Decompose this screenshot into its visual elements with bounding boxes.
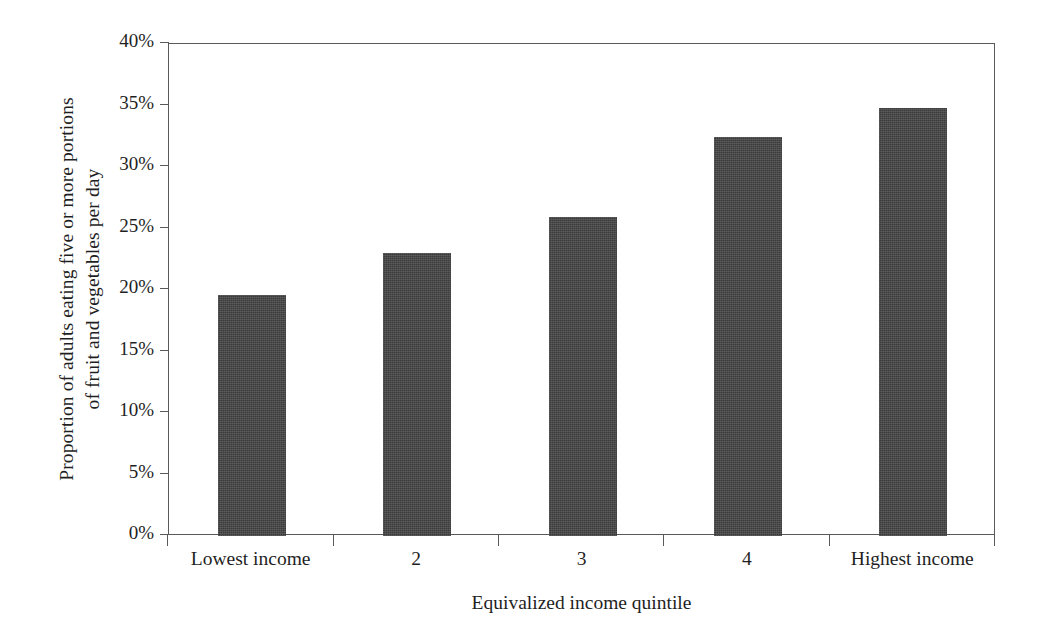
x-axis-tick-label: Highest income	[822, 548, 1002, 570]
x-axis-tick-mark	[333, 535, 334, 546]
y-axis-tick-label: 5%	[92, 461, 154, 483]
y-axis-tick-label: 0%	[92, 522, 154, 544]
y-axis-tick-label: 15%	[92, 338, 154, 360]
y-axis-tick-label: 20%	[92, 276, 154, 298]
x-axis-tick-mark	[994, 535, 995, 546]
x-axis-tick-label: 2	[326, 548, 506, 570]
bar	[383, 253, 451, 536]
plot-area	[168, 43, 995, 535]
x-axis-tick-label: 3	[492, 548, 672, 570]
y-axis-tick-label: 25%	[92, 215, 154, 237]
x-axis-tick-mark	[167, 535, 168, 546]
bar	[549, 217, 617, 536]
x-axis-title: Equivalized income quintile	[168, 592, 995, 614]
x-axis-tick-mark	[498, 535, 499, 546]
y-axis-tick-label: 35%	[92, 92, 154, 114]
x-axis-tick-label: Lowest income	[161, 548, 341, 570]
y-axis-tick-label: 40%	[92, 30, 154, 52]
y-axis-tick-label: 10%	[92, 399, 154, 421]
y-axis-title-line-1: Proportion of adults eating five or more…	[54, 97, 80, 480]
bar-chart-figure: Proportion of adults eating five or more…	[0, 0, 1041, 642]
y-axis-tick-label: 30%	[92, 153, 154, 175]
x-axis-tick-mark	[829, 535, 830, 546]
x-axis-tick-label: 4	[657, 548, 837, 570]
bar	[714, 137, 782, 536]
x-axis-tick-mark	[663, 535, 664, 546]
bar	[879, 108, 947, 536]
bar	[218, 295, 286, 536]
